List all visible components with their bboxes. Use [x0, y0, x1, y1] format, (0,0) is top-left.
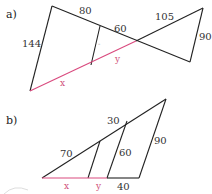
label-90: 90 [199, 31, 212, 42]
figure-a-label: a) [6, 8, 17, 21]
figure-a: a) 144 80 60 105 90 x y - [6, 5, 212, 91]
label-144: 144 [22, 38, 41, 49]
label-y: y [95, 181, 102, 191]
figure-b: b) 70 30 60 90 40 x y [6, 99, 167, 192]
tick-mark: - [98, 40, 101, 48]
faint-artifact [4, 188, 28, 194]
label-x: x [64, 181, 69, 191]
label-x: x [60, 78, 65, 88]
label-105: 105 [155, 11, 174, 22]
label-60: 60 [114, 23, 127, 34]
label-60: 60 [119, 147, 132, 158]
figure-b-label: b) [6, 114, 17, 127]
geometry-figures: a) 144 80 60 105 90 x y - b) 70 30 60 90… [0, 0, 212, 194]
label-70: 70 [60, 148, 73, 159]
label-80: 80 [79, 5, 92, 16]
label-30: 30 [107, 115, 120, 126]
label-90: 90 [154, 135, 167, 146]
label-y: y [114, 54, 121, 64]
inner-line-1 [88, 141, 100, 178]
hypotenuse [42, 99, 166, 178]
label-40: 40 [117, 181, 130, 192]
segment-xy [30, 41, 136, 91]
